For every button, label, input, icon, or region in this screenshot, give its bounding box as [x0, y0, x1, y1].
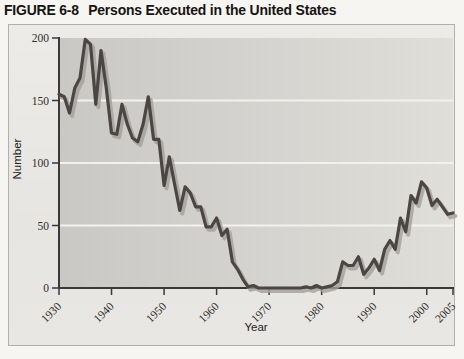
- x-tick-label: 1940: [91, 300, 116, 325]
- executions-line-chart: 050100150200 193019401950196019701980199…: [9, 25, 454, 345]
- x-tick-label: 1930: [39, 300, 64, 325]
- x-tick-label: 1980: [301, 300, 326, 325]
- figure-title: FIGURE 6-8Persons Executed in the United…: [4, 1, 336, 18]
- y-tick-label: 0: [43, 282, 49, 294]
- x-tick-label: 1960: [196, 300, 221, 325]
- scanned-figure-page: FIGURE 6-8Persons Executed in the United…: [0, 0, 464, 359]
- figure-number: FIGURE 6-8: [4, 1, 79, 18]
- x-tick-label: 1990: [354, 300, 379, 325]
- x-tick-label: 2005: [433, 300, 458, 325]
- y-tick-labels: 050100150200: [32, 32, 50, 294]
- y-tick-label: 100: [32, 157, 50, 169]
- y-tick-label: 50: [38, 220, 50, 232]
- y-axis-label: Number: [11, 138, 23, 179]
- y-tick-label: 200: [32, 32, 50, 44]
- x-tick-label: 1950: [144, 300, 169, 325]
- x-tick-label: 2000: [406, 300, 431, 325]
- chart-panel: 050100150200 193019401950196019701980199…: [8, 24, 455, 346]
- x-axis-label: Year: [244, 321, 267, 333]
- figure-caption: Persons Executed in the United States: [88, 1, 336, 18]
- y-tick-label: 150: [32, 95, 50, 107]
